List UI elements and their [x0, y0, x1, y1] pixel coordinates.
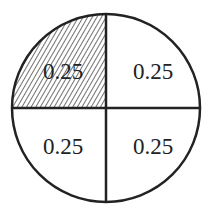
quadrant-label-top-right: 0.25 [133, 59, 173, 84]
quadrant-label-bottom-right: 0.25 [133, 134, 173, 159]
quadrant-circle-diagram: 0.25 0.25 0.25 0.25 [0, 0, 210, 215]
quadrant-label-bottom-left: 0.25 [43, 134, 83, 159]
quadrant-label-top-left: 0.25 [43, 59, 83, 84]
